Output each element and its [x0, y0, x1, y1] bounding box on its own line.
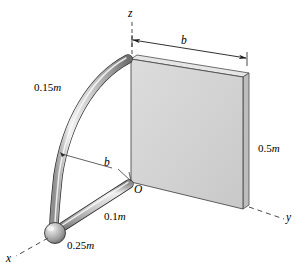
arc-length-unit: m: [53, 81, 61, 93]
sphere-size-dimension: 0.25m: [67, 240, 94, 251]
engineering-diagram: [0, 0, 303, 265]
sphere-size-unit: m: [86, 239, 94, 251]
arc-length-dimension: 0.15m: [34, 82, 61, 93]
plate-width-label: b: [181, 35, 187, 47]
rod-length-dimension: 0.1m: [104, 211, 126, 222]
straight-rod: [56, 182, 129, 231]
arc-radius-leader: [60, 152, 131, 181]
arc-radius-label: b: [104, 157, 110, 169]
rod-length-unit: m: [118, 210, 126, 222]
x-axis-label: x: [6, 253, 11, 265]
y-axis: [249, 207, 284, 219]
plate-height-value: 0.5: [258, 142, 272, 154]
arc-length-value: 0.15: [34, 81, 53, 93]
plate: [131, 55, 249, 209]
y-axis-label: y: [286, 212, 291, 224]
x-axis: [16, 238, 48, 256]
origin-label: O: [134, 184, 142, 196]
plate-height-unit: m: [272, 142, 280, 154]
sphere-size-value: 0.25: [67, 239, 86, 251]
z-axis-label: z: [128, 8, 132, 20]
sphere-mass: [45, 223, 66, 244]
figure-canvas: z y x b b O 0.15m 0.1m 0.25m 0.5m: [0, 0, 303, 265]
plate-height-dimension-label: 0.5m: [258, 143, 280, 154]
quarter-circular-rod: [54, 58, 128, 228]
rod-length-value: 0.1: [104, 210, 118, 222]
